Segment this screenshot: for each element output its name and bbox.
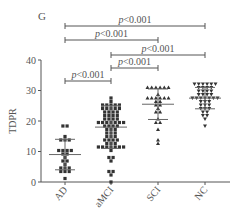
triangle-down-marker (199, 103, 203, 107)
square-marker (70, 149, 73, 152)
p-value-label: p<0.001 (70, 69, 104, 80)
square-marker (105, 107, 108, 110)
square-marker (122, 145, 125, 148)
square-marker (103, 138, 106, 141)
square-marker (66, 152, 69, 155)
square-marker (114, 131, 117, 134)
square-marker (63, 170, 66, 173)
triangle-up-marker (167, 96, 171, 100)
triangle-down-marker (201, 82, 205, 86)
square-marker (118, 121, 121, 124)
triangle-up-marker (154, 100, 158, 104)
square-marker (105, 142, 108, 145)
square-marker (61, 149, 64, 152)
triangle-down-marker (205, 114, 209, 118)
square-marker (112, 117, 115, 120)
y-tick-label: 40 (26, 55, 36, 66)
triangle-up-marker (146, 96, 150, 100)
triangle-down-marker (197, 93, 201, 97)
triangle-down-marker (199, 100, 203, 104)
triangle-down-marker (201, 110, 205, 114)
mean-sd-nc (189, 87, 221, 108)
square-marker (68, 170, 71, 173)
triangle-down-marker (201, 93, 205, 97)
triangle-up-marker (150, 96, 154, 100)
triangle-up-marker (154, 96, 158, 100)
mean-sd-sci (142, 89, 174, 120)
square-marker (114, 128, 117, 131)
square-marker (103, 114, 106, 117)
x-tick-label: NC (192, 184, 210, 202)
triangle-down-marker (193, 82, 197, 86)
square-marker (63, 135, 66, 138)
triangle-up-marker (158, 121, 162, 125)
square-marker (116, 114, 119, 117)
triangle-down-marker (207, 103, 211, 107)
square-marker (107, 170, 110, 173)
square-marker (114, 121, 117, 124)
square-marker (114, 135, 117, 138)
square-marker (109, 173, 112, 176)
square-marker (107, 114, 110, 117)
triangle-down-marker (203, 117, 207, 121)
x-tick-label: aMCI (92, 184, 115, 209)
triangle-up-marker (158, 96, 162, 100)
p-value-label: p<0.001 (117, 56, 151, 67)
triangle-up-marker (162, 96, 166, 100)
square-marker (103, 117, 106, 120)
triangle-up-marker (154, 110, 158, 114)
square-marker (66, 124, 69, 127)
mean-sd-lines (49, 87, 221, 169)
square-marker (105, 121, 108, 124)
square-marker (97, 145, 100, 148)
axes: 010203040TDPRADaMCISCINC (7, 55, 230, 210)
square-marker (107, 156, 110, 159)
square-marker (112, 138, 115, 141)
square-marker (109, 96, 112, 99)
triangle-down-marker (201, 114, 205, 118)
triangle-down-marker (209, 89, 213, 93)
triangle-down-marker (214, 82, 218, 86)
triangle-up-marker (156, 128, 160, 132)
p-value-label: p<0.001 (117, 14, 151, 25)
triangle-down-marker (205, 82, 209, 86)
square-marker (97, 121, 100, 124)
square-marker (107, 110, 110, 113)
square-marker (122, 121, 125, 124)
square-marker (59, 166, 62, 169)
square-marker (118, 107, 121, 110)
square-marker (103, 110, 106, 113)
triangle-up-marker (158, 100, 162, 104)
square-marker (112, 156, 115, 159)
square-marker (116, 117, 119, 120)
significance-bracket: p<0.001 (65, 28, 158, 43)
square-marker (63, 177, 66, 180)
square-marker (105, 135, 108, 138)
square-marker (114, 142, 117, 145)
triangle-down-marker (209, 93, 213, 97)
square-marker (112, 110, 115, 113)
square-marker (109, 159, 112, 162)
data-points (57, 82, 220, 183)
square-marker (61, 124, 64, 127)
y-tick-label: 0 (31, 177, 36, 188)
square-marker (101, 121, 104, 124)
square-marker (61, 159, 64, 162)
triangle-up-marker (158, 110, 162, 114)
square-marker (105, 131, 108, 134)
triangle-up-marker (158, 103, 162, 107)
x-tick-label: SCI (144, 184, 162, 203)
triangle-up-marker (154, 121, 158, 125)
p-value-label: p<0.001 (140, 43, 174, 54)
significance-bracket: p<0.001 (65, 69, 111, 84)
y-tick-label: 20 (26, 116, 36, 127)
triangle-down-marker (197, 89, 201, 93)
square-marker (116, 138, 119, 141)
square-marker (61, 152, 64, 155)
square-marker (109, 100, 112, 103)
y-tick-label: 30 (26, 85, 36, 96)
significance-brackets: p<0.001p<0.001p<0.001p<0.001p<0.001 (65, 14, 205, 84)
triangle-up-marker (154, 103, 158, 107)
square-marker (105, 128, 108, 131)
square-marker (107, 117, 110, 120)
